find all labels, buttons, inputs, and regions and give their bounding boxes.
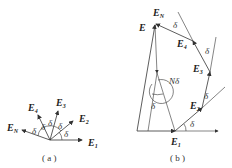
label-e4: E4: [27, 102, 38, 114]
label-resultant-e: E: [138, 22, 146, 33]
label-en: EN: [6, 122, 19, 134]
figure-b: δ δ δ δ δ Nδ E1 E2 E3 E4 EN E ( b ): [137, 7, 225, 163]
n-delta-label: Nδ: [168, 76, 180, 86]
label-e2: E2: [78, 113, 89, 125]
phasor-diagram: δ δ δ δ δ E1 E2 E3 E4 EN ( a ): [0, 0, 232, 168]
delta-label: δ: [173, 20, 178, 30]
angle-arc: [152, 94, 163, 95]
vector-e3: [202, 72, 210, 108]
caption-b: ( b ): [170, 153, 185, 163]
auxiliary-line: [155, 25, 157, 73]
delta-label: δ: [151, 101, 156, 111]
delta-label: δ: [64, 129, 69, 139]
caption-a: ( a ): [42, 153, 57, 163]
angle-arc: [184, 124, 186, 131]
angle-arc: [59, 132, 62, 140]
label-e1: E1: [87, 137, 98, 149]
label-e3: E3: [55, 97, 66, 109]
extension-line: [178, 12, 193, 41]
delta-label: δ: [205, 46, 210, 56]
figure-a: δ δ δ δ δ E1 E2 E3 E4 EN ( a ): [6, 97, 98, 163]
label-e3: E3: [192, 63, 203, 75]
vector-resultant-e: [137, 25, 155, 131]
label-e4: E4: [176, 38, 187, 50]
delta-label: δ: [48, 118, 53, 128]
label-en: EN: [152, 7, 165, 19]
delta-label: δ: [204, 91, 209, 101]
delta-label: δ: [190, 119, 195, 129]
delta-label: δ: [32, 126, 37, 136]
extension-line: [210, 37, 216, 72]
label-e1: E1: [170, 136, 181, 148]
label-e2: E2: [189, 100, 200, 112]
